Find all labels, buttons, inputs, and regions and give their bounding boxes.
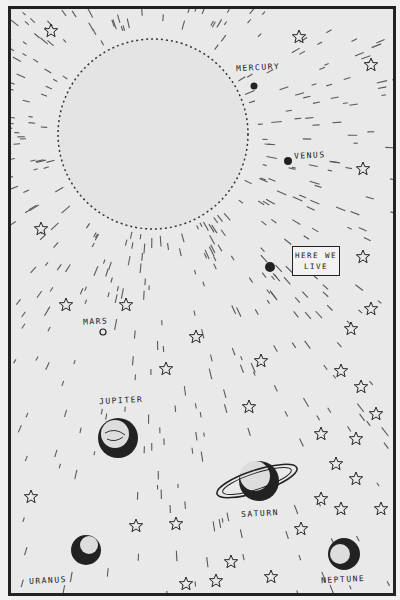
sun (58, 39, 248, 229)
sign-line-2: LIVE (293, 261, 339, 272)
mars-label: MARS (83, 316, 109, 326)
jupiter-planet (98, 418, 138, 458)
neptune-planet (328, 538, 360, 570)
mercury-planet (251, 83, 258, 90)
illustration-frame: MERCURY VENUS MARS JUPITER SATURN URANUS… (8, 6, 396, 596)
saturn-planet (214, 458, 301, 505)
solar-system-drawing (11, 9, 393, 593)
uranus-planet (71, 535, 101, 565)
earth-planet (265, 262, 275, 272)
here-we-live-sign: HERE WE LIVE (292, 246, 340, 276)
mars-planet (100, 329, 106, 335)
venus-label: VENUS (294, 150, 326, 161)
sign-line-1: HERE WE (293, 250, 339, 261)
venus-planet (284, 157, 292, 165)
